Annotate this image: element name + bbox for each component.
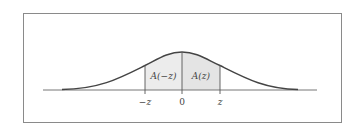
tick-label-zero: 0 bbox=[179, 97, 185, 107]
region-label-left: A(−z) bbox=[150, 71, 177, 81]
tick-label-neg-z: −z bbox=[139, 97, 152, 107]
region-label-right: A(z) bbox=[191, 71, 211, 81]
normal-curve-diagram: A(−z) A(z) −z 0 z bbox=[0, 0, 359, 129]
tick-label-z: z bbox=[217, 97, 223, 107]
